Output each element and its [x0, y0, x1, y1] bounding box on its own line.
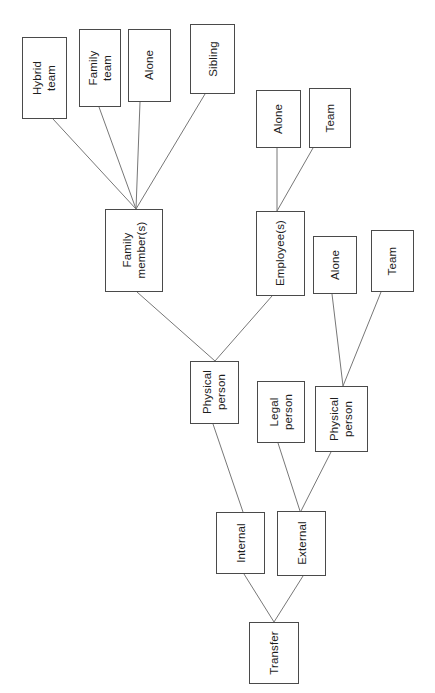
node-label-physical-person-r: Physicalperson: [327, 397, 355, 441]
node-label-line1: Physical: [328, 397, 340, 441]
node-sibling[interactable]: Sibling: [190, 24, 235, 94]
node-internal[interactable]: Internal: [216, 512, 265, 574]
node-label-line1: Team: [386, 247, 398, 276]
node-alone-physical[interactable]: Alone: [313, 236, 357, 294]
edge-sibling-to-family-members: [136, 94, 205, 209]
node-employees[interactable]: Employee(s): [256, 211, 305, 296]
node-physical-person-c[interactable]: Physicalperson: [190, 361, 239, 424]
node-label-internal: Internal: [233, 523, 247, 563]
edge-employees-to-physical-person-c: [215, 296, 272, 361]
node-team-physical[interactable]: Team: [371, 230, 414, 292]
node-label-team-physical: Team: [385, 247, 399, 276]
edge-family-members-to-physical-person-c: [137, 292, 215, 361]
node-label-line1: Family: [121, 233, 133, 268]
node-label-line2: person: [215, 370, 229, 414]
node-external[interactable]: External: [277, 511, 326, 576]
node-label-line2: team: [100, 51, 114, 86]
node-label-line1: Internal: [234, 523, 246, 563]
node-label-sibling: Sibling: [205, 41, 219, 77]
edge-team-physical-to-physical-person-r: [343, 292, 381, 386]
node-label-line2: member(s): [134, 222, 148, 279]
node-family-members[interactable]: Familymember(s): [105, 209, 163, 292]
node-label-alone-employee: Alone: [271, 104, 285, 134]
node-label-external: External: [294, 522, 308, 565]
node-team-employee[interactable]: Team: [309, 88, 351, 148]
node-label-line1: Physical: [201, 370, 213, 414]
node-label-line1: Legal: [268, 398, 280, 427]
diagram-caption: [416, 455, 432, 635]
node-family-team[interactable]: Familyteam: [79, 29, 121, 107]
node-label-line1: Sibling: [206, 41, 218, 77]
node-label-family-team: Familyteam: [86, 51, 114, 86]
node-label-line1: Alone: [272, 104, 284, 134]
node-alone-employee[interactable]: Alone: [256, 90, 301, 148]
node-label-line1: External: [295, 522, 307, 565]
diagram-canvas: HybridteamFamilyteamAloneSiblingFamilyme…: [0, 0, 435, 693]
node-label-line1: Team: [324, 104, 336, 133]
edge-internal-to-transfer: [244, 574, 274, 622]
edge-alone-family-to-family-members: [136, 102, 140, 209]
node-label-alone-family: Alone: [142, 50, 156, 80]
node-label-line2: person: [281, 394, 295, 430]
edge-physical-person-c-to-internal: [213, 424, 243, 512]
edge-alone-physical-to-physical-person-r: [332, 294, 343, 386]
node-label-line1: Alone: [329, 250, 341, 280]
node-label-line1: Hybrid: [31, 61, 43, 95]
node-label-transfer: Transfer: [267, 631, 281, 675]
node-label-legal-person: Legalperson: [267, 394, 295, 430]
node-label-family-members: Familymember(s): [120, 222, 148, 279]
node-hybrid-team[interactable]: Hybridteam: [22, 37, 67, 119]
node-label-line2: person: [342, 397, 356, 441]
node-label-line2: team: [44, 61, 58, 95]
node-label-line1: Transfer: [268, 631, 280, 675]
node-label-hybrid-team: Hybridteam: [30, 61, 58, 95]
node-label-alone-physical: Alone: [328, 250, 342, 280]
edge-physical-person-r-to-external: [301, 452, 331, 511]
node-label-team-employee: Team: [323, 104, 337, 133]
node-label-line1: Family: [87, 51, 99, 86]
node-label-line1: Employee(s): [275, 220, 287, 286]
edge-external-to-transfer: [274, 576, 303, 622]
edge-hybrid-team-to-family-members: [53, 119, 136, 209]
node-label-line1: Alone: [143, 50, 155, 80]
edge-legal-person-to-external: [278, 443, 300, 511]
node-legal-person[interactable]: Legalperson: [257, 381, 305, 443]
node-label-physical-person-c: Physicalperson: [200, 370, 228, 414]
node-transfer[interactable]: Transfer: [249, 622, 299, 684]
node-label-employees: Employee(s): [274, 220, 288, 286]
node-physical-person-r[interactable]: Physicalperson: [315, 386, 368, 452]
edge-family-team-to-family-members: [99, 107, 136, 209]
edge-team-employee-to-employees: [277, 148, 313, 211]
node-alone-family[interactable]: Alone: [128, 29, 171, 102]
